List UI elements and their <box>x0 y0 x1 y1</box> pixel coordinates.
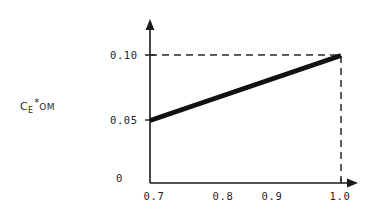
line-chart-figure: CE*OM 0.10 0.05 0 0.7 0.8 0.9 1.0 <box>0 0 378 220</box>
x-axis-arrowhead-icon <box>347 179 358 188</box>
plot-area <box>0 0 378 220</box>
y-axis-arrowhead-icon <box>146 19 155 30</box>
data-series-line <box>150 56 341 121</box>
